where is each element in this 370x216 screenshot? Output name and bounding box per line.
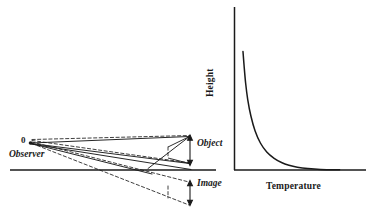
chart-group <box>234 7 366 170</box>
solid-rays-group <box>31 137 191 175</box>
object-label: Object <box>197 139 222 149</box>
origin-label: 0 <box>21 136 26 145</box>
dashed-virtual-image-lower <box>32 144 189 206</box>
solid-ray-object-inner <box>148 137 190 169</box>
chart-x-axis-label: Temperature <box>266 182 321 192</box>
image-label: Image <box>197 179 222 189</box>
solid-ray-refracted-up <box>31 144 191 170</box>
chart-y-axis-label: Height <box>206 68 216 97</box>
object-measure-arrow <box>188 135 193 166</box>
observer-point-marker <box>29 141 33 145</box>
observer-label: Observer <box>9 150 44 160</box>
chart-curve <box>243 52 340 170</box>
dashed-bounce-to-object-bottom <box>32 141 190 164</box>
figure-container: 0 Observer Object Image Height Temperatu… <box>0 0 370 216</box>
ray-diagram-group <box>10 135 216 206</box>
image-measure-arrow <box>188 181 193 206</box>
solid-ray-to-object-bottom <box>31 144 190 164</box>
